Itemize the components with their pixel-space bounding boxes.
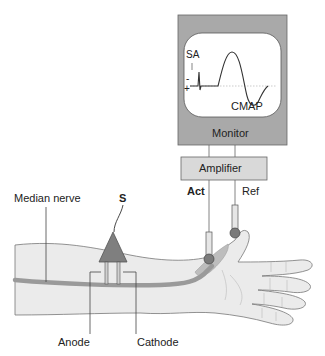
active-label: Act <box>187 186 205 197</box>
reference-electrode-dot <box>230 228 240 238</box>
median-nerve-label: Median nerve <box>14 193 81 204</box>
amplifier-label: Amplifier <box>199 163 242 174</box>
cathode-label: Cathode <box>137 337 179 348</box>
reference-label: Ref <box>242 186 259 197</box>
active-electrode-dot <box>204 254 214 264</box>
active-electrode-shaft <box>206 232 212 256</box>
anode-prong <box>105 262 108 284</box>
stimulator-label: S <box>119 193 126 204</box>
monitor-label: Monitor <box>212 128 249 139</box>
reference-electrode-shaft <box>232 205 238 229</box>
anode-label: Anode <box>58 337 90 348</box>
plus-sign: + <box>184 84 190 94</box>
cathode-prong <box>117 262 120 284</box>
cmap-label: CMAP <box>231 101 263 112</box>
stimulator-wire <box>114 205 123 232</box>
forearm-shape <box>15 230 312 325</box>
stimulator-head <box>99 232 127 262</box>
nerve-conduction-diagram <box>0 0 325 356</box>
sa-label: SA <box>186 50 199 60</box>
